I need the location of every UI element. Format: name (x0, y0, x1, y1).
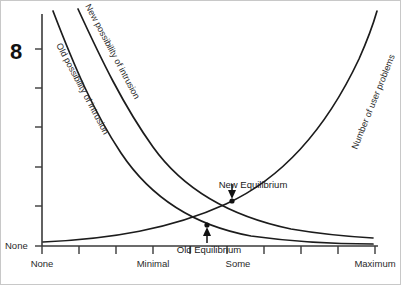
curve-label-number-of-user-problems: Number of user problems (350, 52, 397, 150)
x-axis-label-some: Some (226, 258, 251, 269)
chart-figure: 8 None None Minimal Some Maximum Old pos… (0, 0, 401, 285)
old-equilibrium-point (204, 222, 209, 227)
new-equilibrium-label: New Equilibrium (219, 179, 288, 190)
x-axis-label-none: None (31, 258, 54, 269)
curve-label-old-possibility-of-intrusion: Old possibility of intrusion (54, 41, 111, 136)
chart-plot-area: 8 None None Minimal Some Maximum Old pos… (1, 1, 401, 285)
curve-label-new-possibility-of-intrusion: New possibility of intrusion (83, 2, 142, 100)
old-equilibrium-arrow (203, 227, 211, 243)
x-axis-label-minimal: Minimal (137, 258, 170, 269)
y-axis-ticks (35, 49, 42, 246)
x-axis-label-maximum: Maximum (354, 258, 395, 269)
old-equilibrium-label: Old Equilibrium (177, 244, 241, 255)
new-equilibrium-point (229, 198, 234, 203)
curve-number-of-user-problems (43, 11, 377, 242)
y-axis-infinity-label: 8 (10, 39, 22, 64)
y-axis-none-label: None (5, 240, 28, 251)
